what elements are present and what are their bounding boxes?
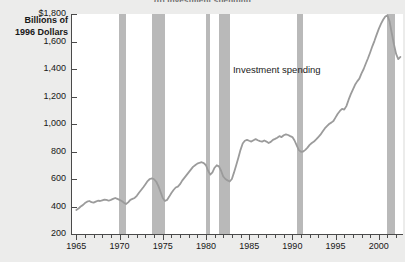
y-tick-mark (72, 69, 77, 70)
x-tick-minor (137, 235, 138, 238)
x-tick-label: 1970 (100, 241, 140, 251)
y-tick-mark (72, 207, 77, 208)
x-tick-minor (327, 235, 328, 238)
y-tick-label: 1,400 (4, 63, 66, 73)
y-tick-label: 600 (4, 173, 66, 183)
x-tick-minor (171, 235, 172, 238)
x-tick-major (163, 235, 164, 240)
x-tick-major (292, 235, 293, 240)
y-tick-label: $1,800 (4, 8, 66, 18)
chart-title: (b) Investment spending (0, 0, 405, 2)
x-tick-minor (197, 235, 198, 238)
x-tick-minor (154, 235, 155, 238)
x-tick-minor (310, 235, 311, 238)
x-tick-minor (223, 235, 224, 238)
x-tick-minor (266, 235, 267, 238)
x-tick-minor (102, 235, 103, 238)
y-tick-label: 1,000 (4, 118, 66, 128)
x-tick-minor (301, 235, 302, 238)
x-tick-minor (215, 235, 216, 238)
y-tick-mark (72, 42, 77, 43)
x-tick-minor (180, 235, 181, 238)
y-tick-mark (72, 179, 77, 180)
x-tick-label: 1995 (316, 241, 356, 251)
x-tick-label: 2000 (359, 241, 399, 251)
x-tick-minor (284, 235, 285, 238)
series-line-investment-spending (76, 15, 400, 210)
plot-area: Investment spending (72, 14, 403, 234)
chart-figure: (b) Investment spending Billions of 1996… (0, 0, 405, 262)
x-tick-label: 1965 (56, 241, 96, 251)
y-tick-label: 1,200 (4, 91, 66, 101)
x-tick-minor (111, 235, 112, 238)
x-tick-major (206, 235, 207, 240)
x-tick-minor (275, 235, 276, 238)
x-tick-label: 1990 (272, 241, 312, 251)
x-tick-minor (353, 235, 354, 238)
x-tick-minor (94, 235, 95, 238)
x-tick-minor (362, 235, 363, 238)
x-tick-major (120, 235, 121, 240)
x-tick-minor (241, 235, 242, 238)
x-tick-major (336, 235, 337, 240)
x-tick-minor (128, 235, 129, 238)
x-tick-label: 1980 (186, 241, 226, 251)
x-tick-minor (189, 235, 190, 238)
series-investment-spending (72, 14, 403, 234)
y-tick-label: 1,600 (4, 36, 66, 46)
y-tick-mark (72, 97, 77, 98)
x-tick-label: 1985 (229, 241, 269, 251)
x-tick-label: 1975 (143, 241, 183, 251)
x-tick-minor (258, 235, 259, 238)
y-tick-mark (72, 14, 77, 15)
x-tick-minor (344, 235, 345, 238)
y-tick-label: 200 (4, 228, 66, 238)
y-tick-label: 400 (4, 201, 66, 211)
x-tick-minor (85, 235, 86, 238)
x-tick-major (76, 235, 77, 240)
x-tick-minor (396, 235, 397, 238)
x-tick-minor (145, 235, 146, 238)
x-tick-minor (370, 235, 371, 238)
x-tick-major (249, 235, 250, 240)
x-tick-minor (232, 235, 233, 238)
y-tick-mark (72, 152, 77, 153)
y-tick-mark (72, 124, 77, 125)
x-tick-minor (387, 235, 388, 238)
x-tick-major (379, 235, 380, 240)
series-annotation: Investment spending (233, 64, 321, 75)
x-tick-minor (318, 235, 319, 238)
y-tick-label: 800 (4, 146, 66, 156)
